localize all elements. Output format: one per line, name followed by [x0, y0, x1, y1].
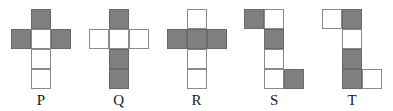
figure-row: PQRST: [0, 0, 393, 111]
net-cell-blank: [89, 29, 109, 49]
net-cell-shaded: [51, 29, 71, 49]
net-grid-p: [11, 9, 71, 89]
net-cell-blank: [264, 9, 284, 29]
net-grid-s: [244, 9, 304, 89]
net-cell-blank: [31, 29, 51, 49]
net-cell-shaded: [167, 29, 187, 49]
net-cell-shaded: [244, 9, 264, 29]
figure-t: T: [315, 0, 389, 111]
net-cell-shaded: [342, 69, 362, 89]
figure-r: R: [160, 0, 234, 111]
net-cell-shaded: [284, 69, 304, 89]
net-grid-q: [89, 9, 149, 89]
net-cell-blank: [187, 69, 207, 89]
figure-label-t: T: [315, 93, 389, 108]
net-cell-blank: [187, 49, 207, 69]
figure-label-p: P: [4, 93, 78, 108]
net-cell-shaded: [342, 49, 362, 69]
figure-label-q: Q: [82, 93, 156, 108]
net-cell-shaded: [109, 49, 129, 69]
net-cell-blank: [109, 29, 129, 49]
net-cell-blank: [187, 9, 207, 29]
figure-p: P: [4, 0, 78, 111]
net-cell-blank: [31, 49, 51, 69]
net-cell-shaded: [11, 29, 31, 49]
figure-s: S: [237, 0, 311, 111]
figure-q: Q: [82, 0, 156, 111]
net-cell-blank: [264, 69, 284, 89]
net-cell-shaded: [187, 29, 207, 49]
net-cell-shaded: [264, 29, 284, 49]
net-cell-blank: [31, 69, 51, 89]
net-grid-r: [167, 9, 227, 89]
net-cell-shaded: [31, 9, 51, 29]
net-cell-blank: [342, 29, 362, 49]
net-cell-blank: [322, 9, 342, 29]
net-cell-shaded: [207, 29, 227, 49]
figure-label-s: S: [237, 93, 311, 108]
figure-label-r: R: [160, 93, 234, 108]
net-cell-blank: [362, 69, 382, 89]
net-cell-blank: [264, 49, 284, 69]
net-cell-shaded: [109, 69, 129, 89]
net-cell-blank: [129, 29, 149, 49]
net-cell-shaded: [109, 9, 129, 29]
net-grid-t: [322, 9, 382, 89]
net-cell-shaded: [342, 9, 362, 29]
